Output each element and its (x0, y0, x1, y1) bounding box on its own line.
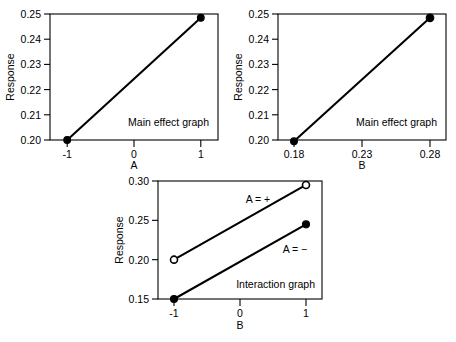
y-tick-label: 0.24 (21, 33, 42, 45)
y-tick-label: 0.20 (21, 134, 42, 146)
y-axis-tick-labels: 0.30 0.25 0.20 0.15 (129, 175, 150, 305)
y-tick-label: 0.23 (249, 58, 270, 70)
data-point (426, 14, 434, 22)
y-axis-tick-labels: 0.25 0.24 0.23 0.22 0.21 0.20 (21, 8, 42, 146)
chart-interaction: 0.30 0.25 0.20 0.15 -1 0 1 B Response (110, 168, 350, 342)
chart-main-effect-b: 0.25 0.24 0.23 0.22 0.21 0.20 0.18 0.23 … (228, 0, 456, 171)
x-tick-label: 0.18 (284, 148, 305, 160)
x-tick-label: -1 (169, 307, 178, 319)
data-point-open (171, 256, 178, 263)
y-tick-label: 0.21 (249, 109, 270, 121)
y-axis-ticks (44, 14, 50, 140)
x-tick-label: 1 (303, 307, 309, 319)
series-label-a-minus: A = − (283, 243, 308, 255)
x-axis-title: B (236, 319, 243, 331)
y-tick-label: 0.20 (129, 254, 150, 266)
y-tick-label: 0.21 (21, 109, 42, 121)
y-tick-label: 0.23 (21, 58, 42, 70)
y-tick-label: 0.25 (249, 8, 270, 20)
y-tick-label: 0.15 (129, 293, 150, 305)
main-effect-a-svg: 0.25 0.24 0.23 0.22 0.21 0.20 -1 0 1 A R… (0, 0, 228, 171)
figure-canvas: 0.25 0.24 0.23 0.22 0.21 0.20 -1 0 1 A R… (0, 0, 456, 342)
data-point-filled (171, 296, 178, 303)
y-axis-ticks (152, 181, 158, 299)
y-tick-label: 0.22 (249, 84, 270, 96)
y-axis-ticks (272, 14, 278, 140)
data-point (291, 138, 298, 145)
data-point-open (303, 181, 310, 188)
data-point (197, 14, 204, 21)
y-axis-title: Response (4, 53, 16, 100)
x-axis-ticks (294, 140, 430, 147)
series-label-a-plus: A = + (246, 193, 271, 205)
x-axis-ticks (67, 140, 201, 147)
y-tick-label: 0.25 (21, 8, 42, 20)
x-axis-title: B (358, 159, 365, 171)
x-tick-label: 0.28 (420, 148, 441, 160)
y-tick-label: 0.20 (249, 134, 270, 146)
x-tick-label: 1 (198, 148, 204, 160)
y-axis-title: Response (113, 216, 125, 263)
y-tick-label: 0.25 (129, 214, 150, 226)
chart-main-effect-a: 0.25 0.24 0.23 0.22 0.21 0.20 -1 0 1 A R… (0, 0, 228, 171)
data-point-filled (303, 221, 310, 228)
y-axis-tick-labels: 0.25 0.24 0.23 0.22 0.21 0.20 (249, 8, 270, 146)
y-tick-label: 0.22 (21, 84, 42, 96)
x-axis-tick-labels: -1 0 1 (169, 307, 309, 319)
panel-caption: Main effect graph (128, 116, 209, 128)
x-tick-label: 0 (237, 307, 243, 319)
x-tick-label: -1 (63, 148, 72, 160)
y-tick-label: 0.30 (129, 175, 150, 187)
panel-caption: Main effect graph (356, 116, 437, 128)
x-axis-ticks (174, 299, 306, 306)
y-tick-label: 0.24 (249, 33, 270, 45)
y-axis-title: Response (232, 53, 244, 100)
main-effect-b-svg: 0.25 0.24 0.23 0.22 0.21 0.20 0.18 0.23 … (228, 0, 456, 171)
panel-caption: Interaction graph (236, 278, 315, 290)
data-point (64, 137, 71, 144)
interaction-svg: 0.30 0.25 0.20 0.15 -1 0 1 B Response (110, 168, 350, 342)
